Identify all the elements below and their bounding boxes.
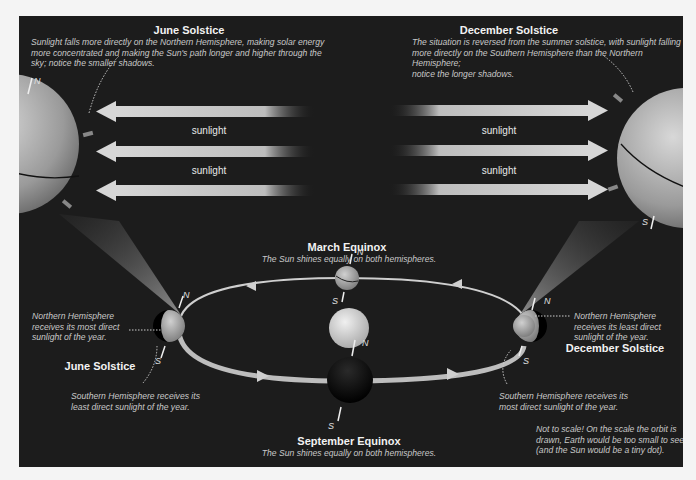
march-equinox-description: The Sun shines equally on both hemispher…: [249, 254, 449, 265]
south-pole-label: S: [155, 356, 161, 366]
june-south-hemisphere-note: Southern Hemisphere receives its least d…: [71, 391, 231, 412]
north-pole-label: N: [183, 290, 190, 300]
sunlight-label: sunlight: [459, 165, 539, 176]
north-pole-label: N: [34, 76, 41, 86]
earth-december-closeup: [604, 56, 683, 229]
june-north-hemisphere-note: Northern Hemisphere receives its most di…: [32, 311, 142, 343]
sunlight-arrows-right: [389, 100, 608, 200]
not-to-scale-note: Not to scale! On the scale the orbit is …: [536, 424, 683, 456]
december-solstice-heading: December Solstice: [449, 24, 569, 36]
seasons-diagram-panel: June Solstice Sunlight falls more direct…: [19, 16, 683, 467]
september-equinox-heading: September Equinox: [279, 435, 419, 447]
june-solstice-heading: June Solstice: [139, 24, 239, 36]
north-pole-label: N: [544, 296, 551, 306]
sunlight-label: sunlight: [459, 125, 539, 136]
south-pole-label: S: [523, 356, 529, 366]
south-pole-label: S: [328, 421, 334, 431]
earth-december-orbit: [503, 298, 571, 384]
south-pole-label: S: [642, 217, 648, 227]
june-solstice-description: Sunlight falls more directly on the Nort…: [31, 37, 361, 69]
december-solstice-description: The situation is reversed from the summe…: [412, 37, 682, 79]
north-pole-label: N: [357, 247, 364, 257]
december-north-hemisphere-note: Northern Hemisphere receives its least d…: [574, 311, 679, 343]
june-solstice-orbit-label: June Solstice: [55, 360, 145, 372]
december-south-hemisphere-note: Southern Hemisphere receives its most di…: [499, 391, 659, 412]
december-solstice-orbit-label: December Solstice: [555, 342, 675, 354]
north-pole-label: N: [362, 338, 369, 348]
south-pole-label: S: [332, 296, 338, 306]
sunlight-arrows-left: [96, 101, 315, 201]
earth-september-orbit: [327, 340, 373, 421]
september-equinox-description: The Sun shines equally on both hemispher…: [249, 448, 449, 459]
march-equinox-heading: March Equinox: [287, 241, 407, 253]
sunlight-label: sunlight: [169, 125, 249, 136]
sunlight-label: sunlight: [169, 165, 249, 176]
